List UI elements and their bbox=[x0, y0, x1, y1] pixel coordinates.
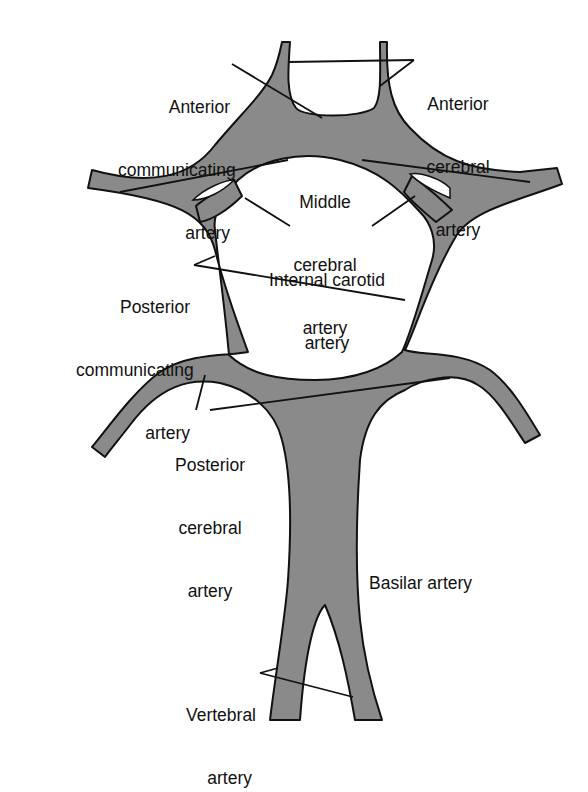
label-line: Internal carotid bbox=[252, 270, 402, 291]
label-basilar-artery: Basilar artery bbox=[369, 531, 509, 615]
label-vertebral-artery: Vertebral artery bbox=[160, 663, 256, 792]
label-line: Posterior bbox=[76, 297, 190, 318]
label-line: artery bbox=[170, 581, 250, 602]
label-line: cerebral bbox=[170, 518, 250, 539]
label-line: artery bbox=[252, 333, 402, 354]
label-line: Anterior bbox=[418, 94, 498, 115]
label-anterior-communicating-artery: Anterior communicating artery bbox=[118, 55, 230, 265]
label-line: Vertebral bbox=[160, 705, 256, 726]
label-line: artery bbox=[418, 220, 498, 241]
label-line: Basilar artery bbox=[369, 573, 509, 594]
label-line: communicating bbox=[118, 160, 230, 181]
label-line: artery bbox=[160, 768, 256, 789]
label-line: Posterior bbox=[170, 455, 250, 476]
label-line: Middle bbox=[280, 192, 370, 213]
label-anterior-cerebral-artery: Anterior cerebral artery bbox=[418, 52, 498, 262]
label-line: communicating bbox=[76, 360, 190, 381]
label-posterior-cerebral-artery: Posterior cerebral artery bbox=[170, 413, 250, 623]
label-line: Anterior bbox=[118, 97, 230, 118]
label-internal-carotid-artery: Internal carotid artery bbox=[252, 228, 402, 375]
label-line: artery bbox=[118, 223, 230, 244]
label-line: cerebral bbox=[418, 157, 498, 178]
